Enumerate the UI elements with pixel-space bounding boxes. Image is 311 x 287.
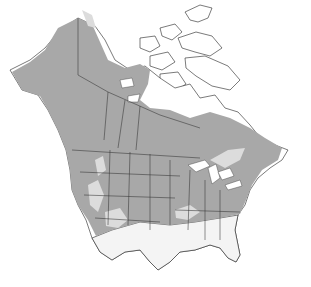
range-map [0, 0, 311, 287]
